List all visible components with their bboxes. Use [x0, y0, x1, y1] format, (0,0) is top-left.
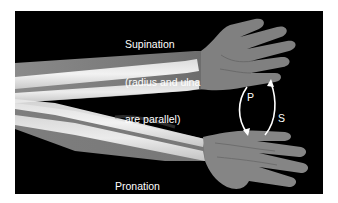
- supination-desc-line-2: are parallel): [125, 113, 200, 126]
- supination-arrow-letter: S: [278, 113, 285, 124]
- supination-label: Supination (radius and ulna are parallel…: [125, 13, 200, 151]
- forearm-rotation-figure: Supination (radius and ulna are parallel…: [15, 11, 323, 194]
- pronation-arrow-icon: [240, 87, 248, 133]
- pronation-arrow-letter: P: [247, 92, 254, 103]
- rotation-arrows: [240, 79, 275, 136]
- pronated-hand: [203, 130, 308, 189]
- supination-desc-line-1: (radius and ulna: [125, 76, 200, 89]
- supination-arrow-icon: [265, 83, 275, 135]
- pronation-title: Pronation: [115, 180, 182, 193]
- supinated-hand: [201, 19, 296, 91]
- pronation-label: Pronation (radius rotates over ulna): [115, 155, 182, 194]
- supination-title: Supination: [125, 38, 200, 51]
